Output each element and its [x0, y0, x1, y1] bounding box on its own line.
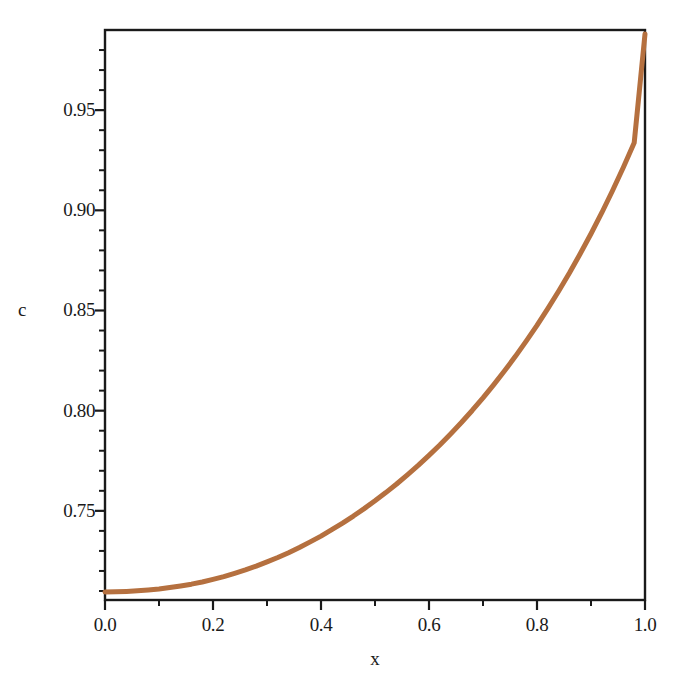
chart-container: 0.750.800.850.900.95 0.00.20.40.60.81.0 … — [0, 0, 695, 677]
x-tick-label: 0.0 — [94, 614, 117, 636]
x-tick-label: 0.2 — [202, 614, 225, 636]
plot-area-svg — [0, 0, 695, 677]
y-tick-label: 0.90 — [40, 199, 95, 221]
y-tick-label: 0.95 — [40, 99, 95, 121]
plot-frame — [105, 30, 645, 600]
x-tick-label: 1.0 — [634, 614, 657, 636]
y-tick-label: 0.75 — [40, 500, 95, 522]
x-axis-title: x — [370, 648, 380, 670]
x-tick-label: 0.8 — [526, 614, 549, 636]
y-axis-title: c — [18, 299, 26, 321]
y-tick-label: 0.80 — [40, 400, 95, 422]
axis-ticks — [95, 50, 645, 610]
y-tick-label: 0.85 — [40, 299, 95, 321]
x-tick-label: 0.4 — [310, 614, 333, 636]
x-tick-label: 0.6 — [418, 614, 441, 636]
data-series — [105, 34, 645, 592]
